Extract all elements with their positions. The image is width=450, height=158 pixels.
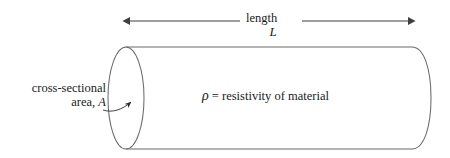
cylinder-right-end-cap	[412, 47, 431, 149]
callout-leader-line	[103, 102, 131, 111]
cylinder-diagram-svg	[0, 0, 450, 158]
callout-symbol-A: A	[98, 95, 106, 109]
callout-line-2-prefix: area,	[71, 95, 98, 109]
rho-definition-text: = resistivity of material	[209, 89, 329, 103]
rho-symbol: ρ	[202, 88, 209, 103]
dimension-label-length: length	[246, 11, 277, 25]
figure-canvas: length L cross-sectional area, A ρ = res…	[0, 0, 450, 158]
dimension-symbol-L: L	[246, 25, 300, 40]
callout-line-1: cross-sectional	[32, 81, 106, 95]
cross-sectional-area-callout: cross-sectional area, A	[6, 81, 106, 109]
cylinder-left-end-face	[108, 47, 144, 149]
resistivity-label: ρ = resistivity of material	[202, 88, 329, 104]
